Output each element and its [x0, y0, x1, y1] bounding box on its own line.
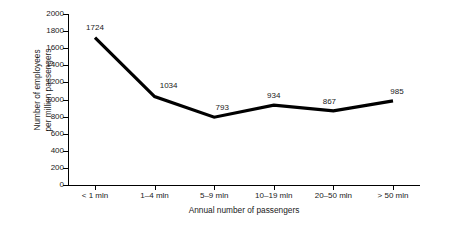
data-label: 985: [377, 87, 417, 96]
data-label: 1034: [149, 81, 189, 90]
data-label: 793: [202, 103, 242, 112]
data-label: 1724: [75, 23, 115, 32]
series-line-layer: [0, 0, 449, 226]
x-axis-title: Annual number of passengers: [68, 205, 420, 215]
line-chart: Number of employees per million passenge…: [0, 0, 449, 226]
data-label: 934: [254, 91, 294, 100]
data-label: 867: [309, 97, 349, 106]
